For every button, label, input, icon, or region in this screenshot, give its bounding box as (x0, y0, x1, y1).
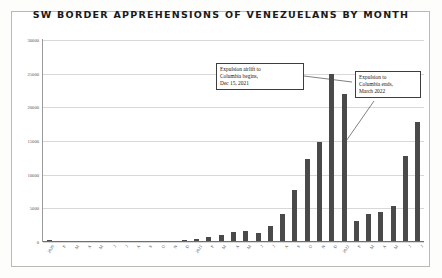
gridline: 15000 (43, 141, 424, 142)
annotation-expulsion-ends: Expulsion to Columbia ends, March 2022 (355, 71, 421, 98)
chart-title: SW BORDER APPREHENSIONS OF VENEZUELANS B… (0, 9, 442, 20)
y-axis-tick-label: 5000 (30, 206, 39, 211)
gridline: 30000 (43, 40, 424, 41)
y-axis-tick-label: 0 (37, 240, 39, 245)
bar (366, 214, 371, 242)
gridline: 10000 (43, 175, 424, 176)
annotation-line: Dec 15, 2021 (220, 80, 300, 87)
bar (415, 122, 420, 242)
bar (342, 94, 347, 242)
gridline: 20000 (43, 107, 424, 108)
annotation-expulsion-airlift-begins: Expulsion airlift to Columbia begins, De… (216, 63, 304, 90)
bar (268, 226, 273, 242)
annotation-line: Expulsion to (359, 74, 417, 81)
bar (378, 212, 383, 242)
bar (305, 159, 310, 242)
bar (354, 221, 359, 242)
gridline: 0 (43, 242, 424, 243)
annotation-line: Columbia begins, (220, 73, 300, 80)
bar (280, 214, 285, 242)
bar (292, 190, 297, 242)
bar (329, 74, 334, 242)
y-axis-tick-label: 20000 (28, 105, 39, 110)
y-axis-tick-label: 10000 (28, 172, 39, 177)
bar (403, 156, 408, 242)
y-axis-tick-label: 30000 (28, 38, 39, 43)
bar (391, 206, 396, 242)
bar (317, 142, 322, 242)
y-axis-tick-label: 25000 (28, 71, 39, 76)
gridline: 5000 (43, 208, 424, 209)
y-axis-tick-label: 15000 (28, 139, 39, 144)
annotation-line: Columbia ends, (359, 81, 417, 88)
chart-figure: SW BORDER APPREHENSIONS OF VENEZUELANS B… (0, 0, 442, 278)
y-axis-line (42, 39, 43, 242)
annotation-line: March 2022 (359, 88, 417, 95)
x-axis-line (43, 241, 424, 242)
annotation-line: Expulsion airlift to (220, 66, 300, 73)
